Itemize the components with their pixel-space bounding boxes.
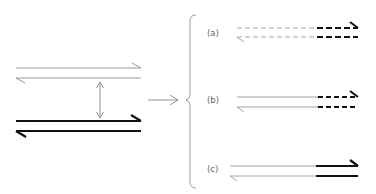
transition-arrow-icon bbox=[148, 95, 178, 105]
pairing-double-arrow-icon bbox=[97, 82, 104, 118]
half-arrowhead-left-icon bbox=[230, 176, 237, 181]
curly-brace-icon bbox=[186, 15, 196, 188]
variant-c: (c) bbox=[207, 160, 358, 181]
variant-b: (b) bbox=[207, 91, 358, 112]
variant-b-label: (b) bbox=[207, 95, 219, 105]
lower-thick-duplex bbox=[16, 115, 141, 137]
strand-diagram: (a) (b) (c) bbox=[0, 0, 376, 194]
half-arrowhead-right-icon bbox=[132, 63, 141, 68]
half-arrowhead-left-icon bbox=[237, 37, 244, 42]
half-arrowhead-left-icon bbox=[237, 107, 244, 112]
variant-a: (a) bbox=[207, 22, 358, 42]
upper-thin-duplex bbox=[16, 63, 141, 83]
variant-c-label: (c) bbox=[207, 164, 218, 174]
half-arrowhead-left-icon bbox=[16, 78, 25, 83]
variant-a-label: (a) bbox=[207, 28, 219, 38]
